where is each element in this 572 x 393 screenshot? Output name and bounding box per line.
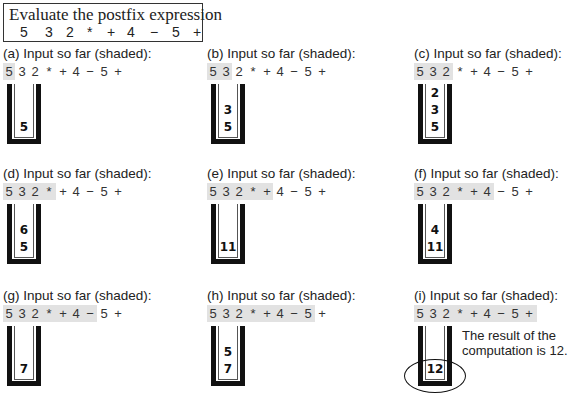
stack: 114	[418, 204, 452, 264]
input-token: 3	[427, 63, 439, 80]
input-token: 2	[29, 63, 41, 80]
stack-wall	[7, 326, 12, 386]
input-token: 5	[509, 305, 521, 322]
input-token: 4	[70, 183, 82, 200]
panel-e: (e) Input so far (shaded):532*+4−5+11	[207, 166, 367, 281]
input-token: 5	[3, 305, 15, 322]
stack-wall	[33, 326, 34, 380]
title-token: 5	[20, 24, 28, 40]
input-token: −	[288, 305, 300, 322]
input-token: −	[84, 63, 96, 80]
input-token: +	[468, 63, 480, 80]
input-token: 5	[207, 183, 219, 200]
input-token: +	[523, 63, 535, 80]
stack-wall	[237, 84, 238, 138]
input-token: +	[468, 183, 480, 200]
title-token: 2	[66, 24, 74, 40]
input-token: +	[57, 305, 69, 322]
title-box: Evaluate the postfix expression 532*+4−5…	[3, 3, 203, 42]
input-token: *	[247, 305, 259, 322]
stack-wall	[237, 326, 238, 380]
stack-wall	[211, 326, 216, 386]
input-token: 4	[481, 183, 493, 200]
stack-wall	[36, 204, 41, 264]
stack-wall	[36, 326, 41, 386]
input-token: −	[495, 183, 507, 200]
stack: 75	[211, 326, 245, 386]
input-token: 4	[70, 305, 82, 322]
stack-wall	[444, 204, 445, 258]
input-token: −	[288, 183, 300, 200]
stack-wall	[7, 139, 41, 144]
input-token: 5	[509, 63, 521, 80]
panel-caption: (d) Input so far (shaded):	[3, 166, 152, 181]
stack-item: 5	[20, 119, 28, 136]
input-token: 3	[427, 183, 439, 200]
stack-wall	[447, 204, 452, 264]
input-token: *	[454, 305, 466, 322]
input-token: +	[468, 305, 480, 322]
stack-wall	[425, 257, 445, 258]
stack-contents: 56	[15, 222, 33, 256]
panel-c: (c) Input so far (shaded):532*+4−5+532	[414, 46, 572, 161]
input-token: 3	[16, 305, 28, 322]
input-token: 5	[509, 183, 521, 200]
input-token: −	[288, 63, 300, 80]
stack-wall	[7, 84, 12, 144]
stack-wall	[7, 204, 12, 264]
stack-contents: 7	[15, 361, 33, 378]
panel-caption: (c) Input so far (shaded):	[414, 46, 562, 61]
stack-wall	[240, 84, 245, 144]
input-token: 4	[70, 63, 82, 80]
input-token: 4	[274, 183, 286, 200]
stack-item: 11	[427, 239, 444, 256]
panel-caption: (g) Input so far (shaded):	[3, 288, 152, 303]
input-token: *	[247, 63, 259, 80]
input-token: +	[523, 305, 535, 322]
title-token: +	[193, 24, 201, 40]
stack-wall	[33, 204, 34, 258]
input-token: 5	[98, 183, 110, 200]
input-token: 5	[3, 63, 15, 80]
stack-item: 11	[220, 239, 237, 256]
stack-wall	[218, 257, 238, 258]
input-token: +	[261, 305, 273, 322]
stack-wall	[36, 84, 41, 144]
input-token: 5	[207, 305, 219, 322]
panel-g: (g) Input so far (shaded):532*+4−5+7	[3, 288, 163, 393]
stack-wall	[14, 379, 34, 380]
stack: 532	[418, 84, 452, 144]
input-token: *	[454, 63, 466, 80]
input-token: 3	[427, 305, 439, 322]
stack: 11	[211, 204, 245, 264]
stack: 7	[7, 326, 41, 386]
input-token: *	[43, 183, 55, 200]
input-token: 5	[414, 183, 426, 200]
stack-wall	[7, 381, 41, 386]
stack-wall	[211, 84, 216, 144]
input-token: +	[316, 305, 328, 322]
input-token: *	[454, 183, 466, 200]
input-token: 2	[440, 63, 452, 80]
input-token: 5	[207, 63, 219, 80]
stack-contents: 532	[426, 85, 444, 136]
stack-item: 7	[20, 361, 28, 378]
stack-wall	[14, 257, 34, 258]
stack-item: 6	[20, 222, 28, 239]
panel-b: (b) Input so far (shaded):532*+4−5+53	[207, 46, 367, 161]
input-token: 3	[220, 305, 232, 322]
stack: 5	[7, 84, 41, 144]
input-token: 2	[29, 305, 41, 322]
stack-wall	[237, 204, 238, 258]
stack-contents: 53	[219, 102, 237, 136]
stack-wall	[33, 84, 34, 138]
input-token: *	[43, 305, 55, 322]
title-token: −	[150, 24, 158, 40]
input-token: 5	[3, 183, 15, 200]
stack-item: 3	[431, 102, 439, 119]
title-token: +	[107, 24, 115, 40]
input-token: −	[495, 305, 507, 322]
input-token: +	[261, 63, 273, 80]
stack-wall	[418, 259, 452, 264]
input-token: 5	[302, 183, 314, 200]
